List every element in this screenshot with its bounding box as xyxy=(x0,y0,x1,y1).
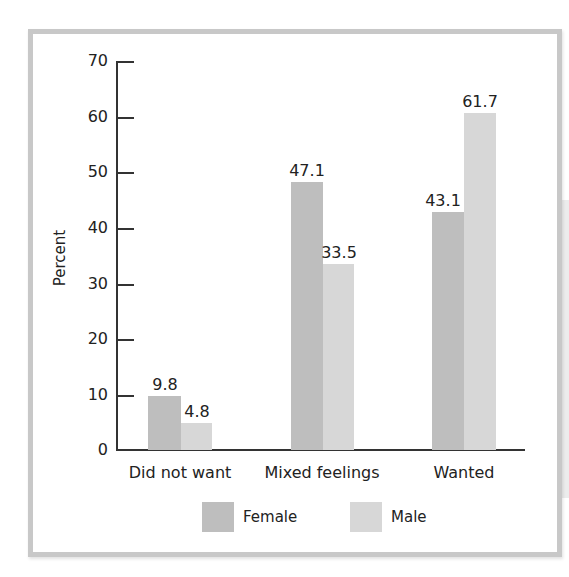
data-label: 9.8 xyxy=(140,377,190,393)
y-tick-label: 50 xyxy=(68,164,108,180)
legend-label-male: Male xyxy=(391,508,427,526)
y-tick xyxy=(117,284,134,286)
legend-swatch-male xyxy=(350,502,382,532)
y-tick xyxy=(117,117,134,119)
y-axis-label: Percent xyxy=(51,230,69,286)
legend-label-female: Female xyxy=(243,508,297,526)
y-tick xyxy=(117,172,134,174)
y-tick-label: 40 xyxy=(68,220,108,236)
x-category-label: Mixed feelings xyxy=(247,464,397,482)
y-tick-label: 30 xyxy=(68,276,108,292)
y-tick-label: 0 xyxy=(68,442,108,458)
legend-swatch-female xyxy=(202,502,234,532)
y-tick-label: 70 xyxy=(68,53,108,69)
y-tick xyxy=(117,228,134,230)
bar-female-wanted xyxy=(432,212,464,450)
y-tick-label: 60 xyxy=(68,109,108,125)
data-label: 47.1 xyxy=(282,163,332,179)
data-label: 33.5 xyxy=(314,245,364,261)
bar-male-mixed-feelings xyxy=(323,264,354,450)
bar-female-mixed-feelings xyxy=(291,182,323,450)
y-tick-label: 10 xyxy=(68,387,108,403)
y-axis xyxy=(116,61,118,451)
x-category-label: Did not want xyxy=(105,464,255,482)
bar-male-wanted xyxy=(464,113,496,450)
y-tick xyxy=(117,61,134,63)
bar-male-did-not-want xyxy=(181,423,212,450)
y-tick xyxy=(117,395,134,397)
data-label: 61.7 xyxy=(455,94,505,110)
data-label: 4.8 xyxy=(172,404,222,420)
y-tick-label: 20 xyxy=(68,331,108,347)
y-tick xyxy=(117,339,134,341)
data-label: 43.1 xyxy=(418,193,468,209)
x-category-label: Wanted xyxy=(389,464,539,482)
